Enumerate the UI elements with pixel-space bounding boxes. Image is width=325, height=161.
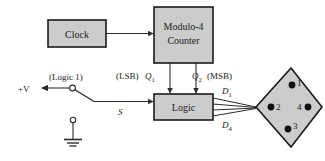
q2-subscript: 2 [199, 76, 202, 83]
clock-block-label: Clock [65, 29, 89, 40]
display-dot-3-number: 3 [293, 121, 298, 131]
display-dot-2[interactable] [268, 104, 275, 111]
counter-block-label-line1: Modulo-4 [164, 21, 204, 32]
supply-voltage-text: +V [18, 84, 30, 94]
display-dot-2-number: 2 [276, 102, 281, 112]
diagram-canvas: Clock Modulo-4 Counter Logic +V (Logic 1… [0, 0, 325, 161]
switch-pivot-circle[interactable] [70, 85, 76, 91]
lsb-label: (LSB) [116, 71, 139, 81]
msb-label: (MSB) [207, 71, 232, 81]
display-dot-4[interactable] [305, 104, 312, 111]
switch-arm[interactable] [75, 90, 95, 102]
switch-signal-label: S [118, 107, 123, 117]
d4-subscript: 4 [229, 125, 233, 132]
d4-label: D4 [221, 120, 233, 132]
circuit-diagram: Clock Modulo-4 Counter Logic +V (Logic 1… [0, 0, 325, 161]
diamond-display[interactable] [256, 68, 322, 147]
display-dot-3[interactable] [285, 126, 292, 133]
display-dot-4-number: 4 [297, 102, 302, 112]
counter-block-label-line2: Counter [167, 35, 200, 46]
switch-signal-symbol: S [118, 107, 123, 117]
logic-one-label: (Logic 1) [49, 72, 83, 82]
d1-label: D1 [221, 86, 232, 98]
q1-label: Q1 [145, 71, 155, 83]
d1-subscript: 1 [229, 91, 232, 98]
ground-terminal-circle[interactable] [70, 117, 75, 122]
q1-subscript: 1 [152, 76, 155, 83]
display-dot-1-number: 1 [297, 78, 302, 88]
display-dot-1[interactable] [289, 82, 296, 89]
supply-voltage-label: +V [18, 84, 30, 94]
logic-block-label: Logic [172, 102, 196, 113]
q2-label: Q2 [192, 71, 202, 83]
